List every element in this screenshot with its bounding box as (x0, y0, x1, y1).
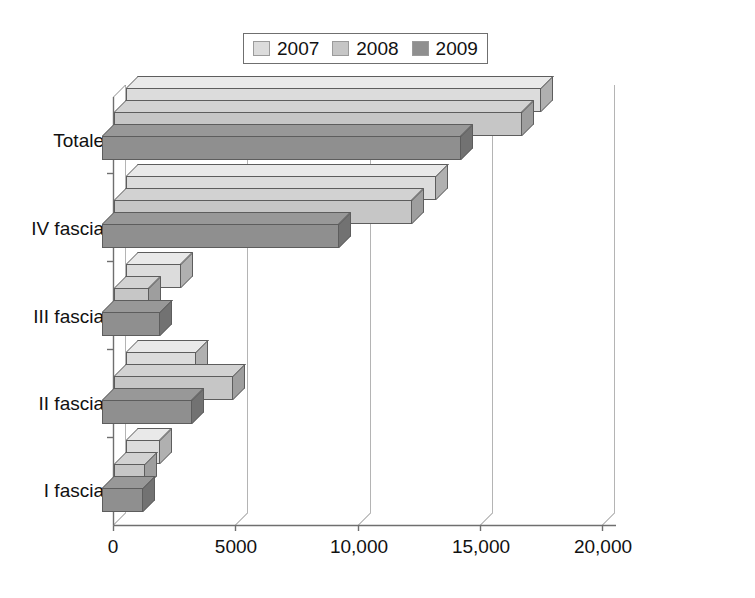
x-tick-label-5000: 5000 (215, 536, 257, 558)
bar-top-face (102, 124, 473, 136)
bar-front-face (102, 488, 144, 512)
bar-2009-iv-fascia (102, 224, 339, 248)
bar-2009-iii-fascia (102, 312, 161, 336)
bar-top-face (126, 76, 554, 88)
bar-2009-totale (102, 136, 461, 160)
x-tick-label-20000: 20,000 (574, 536, 632, 558)
bar-top-face (114, 188, 424, 200)
bar-top-face (114, 364, 246, 376)
bar-2009-ii-fascia (102, 400, 192, 424)
bar-front-face (102, 136, 461, 160)
x-tick-label-15000: 15,000 (452, 536, 510, 558)
bar-2009-i-fascia (102, 488, 144, 512)
bar-chart: 2007 2008 2009 Totale IV fascia III fasc… (0, 0, 755, 598)
bar-top-face (102, 212, 351, 224)
x-tick-label-0: 0 (108, 536, 119, 558)
bar-front-face (102, 312, 161, 336)
bar-top-face (126, 164, 449, 176)
bar-front-face (102, 224, 339, 248)
bar-top-face (102, 388, 204, 400)
x-axis-ticks (114, 526, 603, 532)
x-tick-label-10000: 10,000 (330, 536, 388, 558)
bar-front-face (102, 400, 192, 424)
bar-top-face (114, 100, 534, 112)
